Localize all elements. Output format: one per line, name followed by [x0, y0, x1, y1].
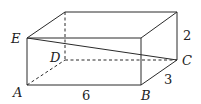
label-d: D [49, 50, 61, 65]
box-diagram: E D A B C 6 3 2 [0, 0, 201, 104]
label-a: A [12, 85, 22, 100]
label-b: B [140, 88, 151, 103]
label-e: E [10, 31, 21, 46]
dimension-height: 2 [183, 28, 191, 43]
edge-top-left [27, 12, 65, 38]
edge-top-right [141, 12, 177, 38]
dimension-length: 6 [82, 88, 90, 103]
dimension-width: 3 [164, 72, 172, 87]
label-c: C [182, 53, 192, 68]
